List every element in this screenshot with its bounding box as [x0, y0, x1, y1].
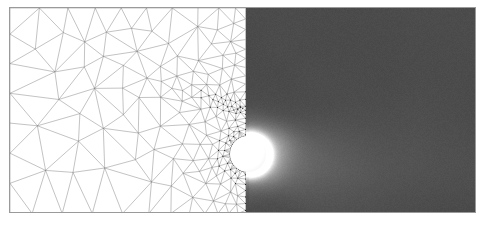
simulation-domain [9, 7, 476, 213]
cylinder-body [230, 136, 266, 172]
triangular-mesh [10, 8, 246, 212]
cfd-figure [0, 0, 490, 230]
mesh-panel [10, 8, 246, 212]
flow-field-heatmap [246, 8, 475, 212]
flow-field-panel [246, 8, 475, 212]
